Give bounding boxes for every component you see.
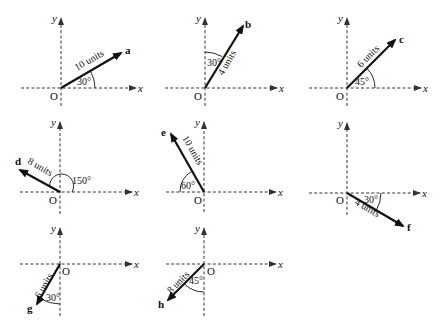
x-axis-label: x <box>137 82 143 94</box>
origin-label: O <box>62 265 70 277</box>
y-axis-label: y <box>194 222 200 234</box>
vector-diagram-grid: x y O a 10 units 30° x y O b 4 units 30°… <box>0 0 445 329</box>
origin-label: O <box>207 265 215 277</box>
vector-label: c <box>399 33 404 45</box>
panel-e: x y O e 10 units 60° <box>161 116 283 212</box>
x-axis-label: x <box>277 186 283 198</box>
vector-label: e <box>161 126 166 138</box>
angle-label: 30° <box>207 57 221 68</box>
angle-label: 30° <box>77 76 91 87</box>
origin-label: O <box>50 90 58 102</box>
x-axis-label: x <box>278 82 284 94</box>
angle-arc <box>90 71 95 88</box>
vector-label: h <box>158 298 164 310</box>
y-axis-label: y <box>194 116 200 128</box>
origin-label: O <box>49 194 57 206</box>
y-axis-label: y <box>50 116 56 128</box>
angle-label: 150° <box>72 175 91 186</box>
vector-label: d <box>15 155 21 167</box>
x-axis-label: x <box>422 82 428 94</box>
angle-label: 30° <box>46 292 60 303</box>
x-axis-label: x <box>133 186 139 198</box>
panel-c: x y O c 6 units 45° <box>309 12 428 106</box>
origin-label: O <box>194 194 202 206</box>
y-axis-label: y <box>337 117 343 129</box>
y-axis-label: y <box>51 12 57 24</box>
angle-label: 45° <box>189 275 203 286</box>
magnitude-label: 10 units <box>73 47 106 73</box>
origin-label: O <box>194 90 202 102</box>
vector-label: b <box>245 18 251 30</box>
vector-label: a <box>125 44 131 56</box>
angle-label: 30° <box>364 194 378 205</box>
panel-a: x y O a 10 units 30° <box>21 12 143 106</box>
y-axis-label: y <box>337 12 343 24</box>
angle-arc <box>205 52 222 57</box>
panel-b: x y O b 4 units 30° <box>165 12 284 106</box>
x-axis-label: x <box>421 187 427 199</box>
x-axis-label: x <box>277 258 283 270</box>
origin-label: O <box>336 90 344 102</box>
y-axis-label: y <box>50 222 56 234</box>
magnitude-label: 10 units <box>180 134 206 167</box>
panel-g: x y O g 6 units 30° <box>20 222 139 316</box>
y-axis-label: y <box>195 12 201 24</box>
vector-label: g <box>27 302 33 314</box>
panel-h: x y O h 8 units 45° <box>158 222 283 316</box>
vector-label: f <box>407 221 411 233</box>
panel-f: x y O f 4 units 30° <box>309 117 427 233</box>
origin-label: O <box>336 194 344 206</box>
angle-label: 60° <box>181 180 195 191</box>
x-axis-label: x <box>133 258 139 270</box>
panel-d: x y O d 8 units 150° <box>15 116 139 214</box>
vector-d <box>20 170 60 192</box>
angle-label: 45° <box>355 76 369 87</box>
